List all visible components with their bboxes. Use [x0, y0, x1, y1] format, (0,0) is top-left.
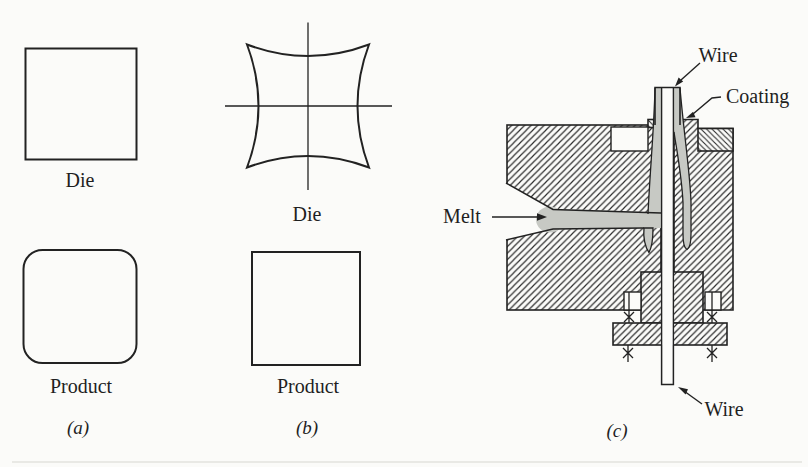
- extrusion-die-figure: Die Product (a) Die Product (b): [0, 0, 808, 467]
- die-b-label: Die: [293, 203, 322, 225]
- product-a-label: Product: [50, 375, 113, 397]
- product-b-label: Product: [277, 375, 340, 397]
- wire-top-label: Wire: [698, 44, 737, 66]
- wire-top-arrow-line: [681, 63, 700, 80]
- die-a-label: Die: [66, 169, 95, 191]
- scan-artifact-line: [12, 461, 802, 463]
- panel-c-caption: (c): [606, 420, 627, 442]
- stud-lower-left: [623, 345, 633, 362]
- product-a-rounded-square: [24, 250, 137, 363]
- panel-c: Wire Coating Melt Wire (c): [443, 44, 789, 442]
- stud-notch-right: [705, 292, 721, 310]
- top-groove-notch: [611, 127, 648, 151]
- wire-channel-bore: [662, 88, 674, 345]
- product-b-square: [252, 252, 360, 365]
- wire-bottom-label: Wire: [704, 398, 743, 420]
- stud-notch-left: [624, 292, 641, 310]
- panel-b-caption: (b): [296, 417, 318, 439]
- coating-label: Coating: [726, 85, 789, 108]
- panel-a: Die Product (a): [24, 49, 137, 440]
- figure-canvas: Die Product (a) Die Product (b): [0, 0, 808, 467]
- panel-b: Die Product (b): [225, 23, 392, 440]
- bare-wire-bottom: [662, 345, 674, 385]
- wire-bottom-arrow-line: [684, 391, 702, 404]
- die-a-square: [26, 49, 137, 160]
- coating-arrow-line: [693, 97, 721, 114]
- melt-label: Melt: [443, 205, 481, 227]
- panel-a-caption: (a): [67, 417, 89, 439]
- stud-lower-right: [707, 345, 717, 362]
- die-top-right-piece: [698, 129, 733, 152]
